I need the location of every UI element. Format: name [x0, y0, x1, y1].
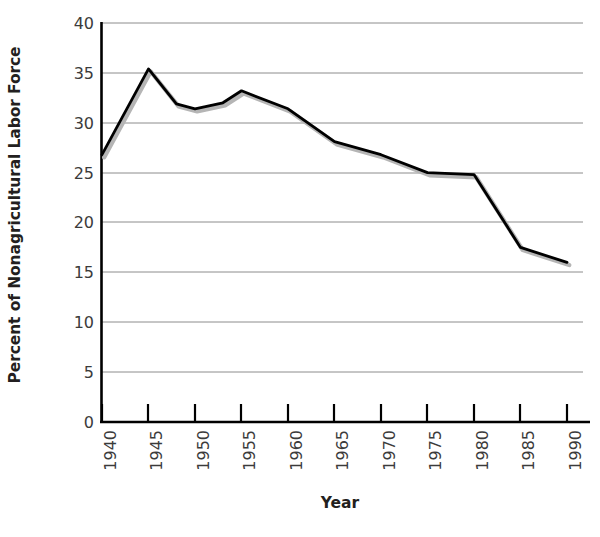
- x-tick-label: 1980: [473, 430, 492, 471]
- data-line: [102, 69, 567, 263]
- x-tick-label: 1940: [101, 430, 120, 471]
- chart-figure: Percent of Nonagricultural Labor Force 4…: [0, 0, 600, 537]
- x-tick-label: 1970: [380, 430, 399, 471]
- gridlines: [101, 23, 583, 372]
- x-tick-label: 1945: [147, 430, 166, 471]
- x-tick-label: 1960: [287, 430, 306, 471]
- x-axis-title: Year: [100, 494, 580, 512]
- x-axis-tick-labels: 1940 1945 1950 1955 1960 1965 1970 1975 …: [0, 430, 600, 500]
- x-tick-label: 1955: [240, 430, 259, 471]
- x-tick-label: 1985: [519, 430, 538, 471]
- x-tick-label: 1975: [426, 430, 445, 471]
- x-tick-label: 1950: [194, 430, 213, 471]
- x-axis-ticks: [102, 404, 567, 422]
- x-tick-label: 1965: [333, 430, 352, 471]
- x-tick-label: 1990: [566, 430, 585, 471]
